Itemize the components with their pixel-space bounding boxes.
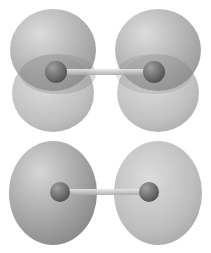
nucleus-right <box>139 182 159 202</box>
nucleus-right <box>143 61 165 83</box>
nucleus-left <box>50 182 70 202</box>
bond <box>58 69 154 75</box>
orbital-diagram <box>0 0 211 253</box>
nucleus-left <box>45 61 67 83</box>
sigma-orbital-panel <box>9 141 202 245</box>
orbital-svg <box>0 0 211 253</box>
pi-orbital-panel <box>10 9 201 132</box>
bond <box>60 189 150 195</box>
